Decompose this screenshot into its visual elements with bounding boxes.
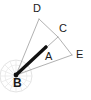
segment-D-C xyxy=(39,19,58,37)
geometry-diagram: D C E A B xyxy=(0,0,91,100)
segment-B-D xyxy=(16,19,39,75)
segment-C-E xyxy=(58,37,72,55)
vertex-label-A: A xyxy=(45,51,52,62)
vertex-label-E: E xyxy=(76,49,83,60)
vertex-label-B: B xyxy=(13,78,22,89)
vertex-dot-A xyxy=(45,46,48,49)
vertex-label-C: C xyxy=(59,23,67,34)
vertex-label-D: D xyxy=(33,3,41,14)
